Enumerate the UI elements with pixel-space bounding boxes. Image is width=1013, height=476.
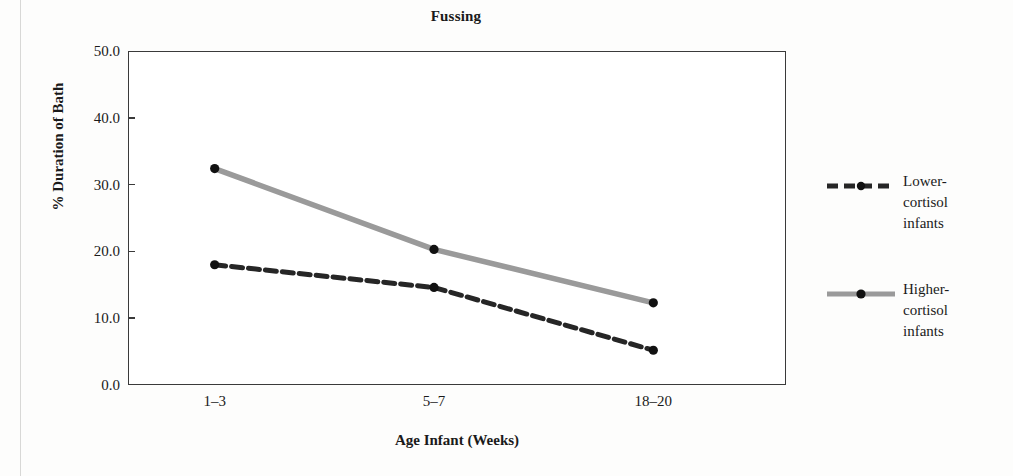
- legend-swatch-solid-line: [827, 287, 895, 301]
- y-tick-mark: [128, 251, 135, 253]
- y-axis-title: % Duration of Bath: [50, 37, 67, 257]
- legend-label-higher-cortisol: Higher- cortisol infants: [903, 279, 1009, 342]
- x-tick-label: 5–7: [374, 392, 494, 410]
- figure-panel: Fussing 0.010.020.030.040.050.0 1–35–718…: [0, 0, 1013, 476]
- x-axis-title: Age Infant (Weeks): [128, 432, 786, 449]
- y-tick-mark: [128, 184, 135, 186]
- y-tick-label: 20.0: [62, 244, 120, 258]
- y-tick-label: 30.0: [62, 178, 120, 192]
- y-tick-label: 40.0: [62, 111, 120, 125]
- y-tick-label: 50.0: [62, 44, 120, 58]
- legend-label-lower-cortisol: Lower- cortisol infants: [903, 171, 1009, 234]
- y-tick-label: 0.0: [62, 378, 120, 392]
- chart-title: Fussing: [128, 6, 784, 26]
- x-tick-label: 18–20: [593, 392, 713, 410]
- y-tick-mark: [128, 317, 135, 319]
- scan-artifact-line: [20, 0, 21, 476]
- plot-area: [128, 51, 786, 385]
- x-tick-label: 1–3: [155, 392, 275, 410]
- legend-swatch-dashed-line: [827, 179, 895, 193]
- y-tick-mark: [128, 117, 135, 119]
- y-tick-label: 10.0: [62, 311, 120, 325]
